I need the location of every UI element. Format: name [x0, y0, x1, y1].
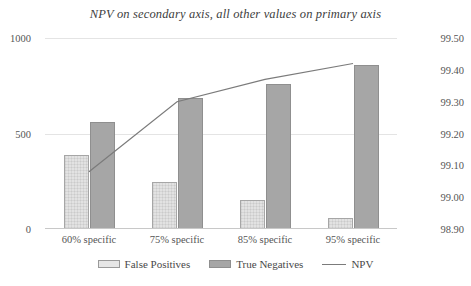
secondary-y-tick-label: 99.10	[402, 160, 468, 171]
secondary-y-tick-label: 98.90	[402, 224, 468, 235]
primary-y-tick-label: 1000	[0, 33, 37, 44]
x-axis-label: 60% specific	[62, 234, 117, 245]
x-axis-label: 85% specific	[238, 234, 293, 245]
secondary-y-tick-label: 99.20	[402, 128, 468, 139]
secondary-y-tick-label: 99.30	[402, 96, 468, 107]
legend-item-true-negatives: True Negatives	[209, 258, 303, 270]
chart-container: NPV on secondary axis, all other values …	[0, 0, 471, 286]
chart-title: NPV on secondary axis, all other values …	[0, 7, 471, 22]
x-axis-label: 95% specific	[326, 234, 381, 245]
legend-swatch-true-negatives	[209, 260, 231, 268]
legend-item-npv: NPV	[322, 258, 373, 270]
legend-label-false-positives: False Positives	[125, 258, 191, 270]
secondary-y-tick-label: 99.50	[402, 33, 468, 44]
chart-legend: False Positives True Negatives NPV	[0, 258, 471, 270]
legend-label-npv: NPV	[351, 258, 373, 270]
primary-y-tick-label: 0	[0, 224, 37, 235]
legend-item-false-positives: False Positives	[98, 258, 191, 270]
legend-swatch-npv	[322, 260, 346, 268]
npv-line-series	[45, 38, 397, 229]
legend-label-true-negatives: True Negatives	[236, 258, 303, 270]
npv-polyline	[89, 64, 353, 172]
secondary-y-tick-label: 99.00	[402, 192, 468, 203]
x-axis-label: 75% specific	[150, 234, 205, 245]
secondary-y-tick-label: 99.40	[402, 64, 468, 75]
legend-swatch-false-positives	[98, 260, 120, 268]
primary-y-tick-label: 500	[0, 128, 37, 139]
